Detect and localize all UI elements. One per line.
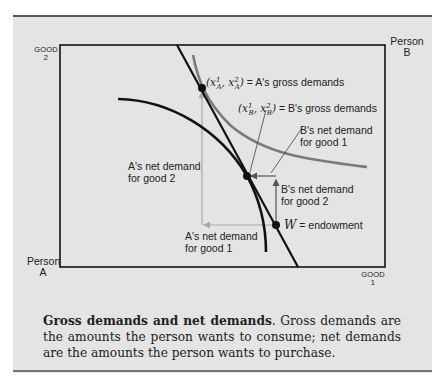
endowment-label: W = endowment (284, 219, 363, 231)
good1-label-num: 1 (360, 279, 386, 287)
b-net-good2-line2: for good 2 (281, 195, 354, 207)
good2-axis-label: GOOD 2 (33, 46, 59, 62)
b-gross-demand-point (243, 172, 251, 180)
endowment-text: = endowment (299, 219, 362, 231)
figure-caption: Gross demands and net demands. Gross dem… (43, 313, 401, 361)
caption-title: Gross demands and net demands (43, 314, 272, 328)
person-b-line2: B (389, 47, 425, 58)
a-net-good2-line2: for good 2 (128, 172, 201, 184)
person-a-origin-label: Person A (27, 256, 59, 278)
b-net-good2-line1: B's net demand (281, 183, 354, 195)
b-net-good1-label: B's net demand for good 1 (300, 124, 373, 148)
b-gross-math: (x1B, x2B) (238, 102, 276, 114)
b-net-good1-line1: B's net demand (300, 124, 373, 136)
good1-axis-label: GOOD 1 (360, 271, 386, 287)
b-net-good1-line2: for good 1 (300, 136, 373, 148)
good2-label-num: 2 (33, 54, 59, 62)
endowment-point (272, 221, 280, 229)
endowment-symbol: W (284, 218, 296, 232)
person-b-origin-label: Person B (389, 36, 425, 58)
b-gross-demand-label: (x1B, x2B) = B's gross demands (238, 99, 377, 119)
a-gross-math: (x1A, x2A) (206, 76, 244, 88)
panel-bottom-border (13, 370, 432, 372)
a-gross-demand-point (198, 84, 206, 92)
b-net-good2-label: B's net demand for good 2 (281, 183, 354, 207)
a-net-good1-line2: for good 1 (185, 242, 258, 254)
a-gross-text: = A's gross demands (247, 76, 344, 88)
a-gross-demand-label: (x1A, x2A) = A's gross demands (206, 73, 344, 93)
person-a-line2: A (27, 267, 59, 278)
b-gross-text: = B's gross demands (279, 102, 377, 114)
a-net-good1-line1: A's net demand (185, 230, 258, 242)
a-net-good2-line1: A's net demand (128, 160, 201, 172)
a-net-good2-label: A's net demand for good 2 (128, 160, 201, 184)
a-net-good1-label: A's net demand for good 1 (185, 230, 258, 254)
